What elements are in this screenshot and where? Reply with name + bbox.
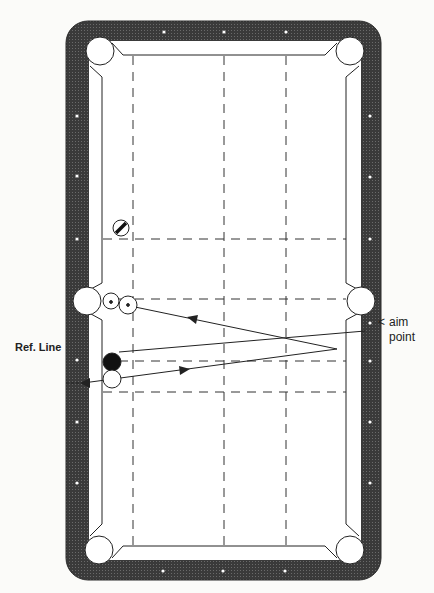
ref-line-label: Ref. Line: [15, 341, 61, 353]
pocket-bottom-left: [85, 536, 113, 564]
pocket-side-right: [347, 287, 375, 315]
aim-point-label-line1: aim: [389, 315, 415, 330]
pocket-top-left: [86, 37, 114, 65]
aim-point-label: aim point: [389, 315, 415, 345]
pocket-bottom-right: [336, 536, 364, 564]
object-ball-2: [119, 296, 137, 314]
pocket-top-right: [336, 37, 364, 65]
pool-table-diagram: [0, 0, 434, 593]
cue-ball: [103, 370, 121, 388]
pocket-side-left: [73, 287, 101, 315]
aim-point-marker: <: [378, 315, 385, 329]
object-ball-1: [103, 293, 119, 309]
black-ball: [103, 353, 121, 371]
aim-point-label-line2: point: [389, 330, 415, 345]
striped-ball: [113, 220, 129, 236]
